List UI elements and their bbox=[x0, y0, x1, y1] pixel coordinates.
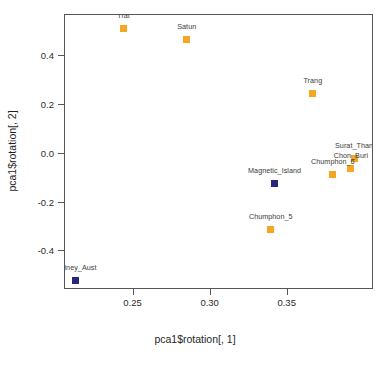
data-point-label-surat_thani: Surat_Thani bbox=[335, 141, 373, 150]
data-point-label-trat: Trat bbox=[117, 14, 130, 20]
data-point-satun bbox=[183, 36, 190, 43]
x-tick-mark bbox=[287, 289, 288, 295]
x-axis-title: pca1$rotation[, 1] bbox=[0, 333, 390, 345]
x-tick-label: 0.30 bbox=[200, 297, 219, 308]
data-point-label-chumphon_5: Chumphon_5 bbox=[249, 212, 293, 221]
x-tick-mark bbox=[133, 289, 134, 295]
data-point-label-trang: Trang bbox=[303, 76, 322, 85]
y-axis-title: pca1$rotation[, 2] bbox=[6, 110, 18, 191]
y-tick-mark bbox=[58, 202, 64, 203]
data-point-chumphon_5 bbox=[267, 226, 274, 233]
data-point-label-sydney_aust: Sydney_Aust bbox=[64, 263, 96, 272]
scatter-plot: TratSatunTrangSurat_ThaniChon_BuriChumph… bbox=[0, 0, 390, 365]
data-point-label-satun: Satun bbox=[177, 22, 196, 31]
y-tick-mark bbox=[58, 55, 64, 56]
y-tick-label: 0.2 bbox=[41, 98, 54, 109]
x-tick-label: 0.35 bbox=[277, 297, 296, 308]
data-point-chumphon_6 bbox=[329, 171, 336, 178]
data-point-trat bbox=[120, 25, 127, 32]
data-point-label-chumphon_6: Chumphon_6 bbox=[311, 157, 355, 166]
x-tick-label: 0.25 bbox=[123, 297, 142, 308]
y-tick-label: -0.4 bbox=[38, 245, 54, 256]
y-tick-label: -0.2 bbox=[38, 196, 54, 207]
y-tick-mark bbox=[58, 104, 64, 105]
y-tick-label: 0.4 bbox=[41, 50, 54, 61]
plot-panel: TratSatunTrangSurat_ThaniChon_BuriChumph… bbox=[64, 14, 373, 289]
data-point-label-magnetic_island: Magnetic_Island bbox=[248, 166, 301, 175]
data-point-magnetic_island bbox=[271, 180, 278, 187]
data-point-sydney_aust bbox=[72, 277, 79, 284]
data-point-trang bbox=[309, 90, 316, 97]
y-tick-mark bbox=[58, 153, 64, 154]
y-tick-label: 0.0 bbox=[41, 147, 54, 158]
x-tick-mark bbox=[210, 289, 211, 295]
data-point-chon_buri bbox=[347, 165, 354, 172]
y-tick-mark bbox=[58, 250, 64, 251]
